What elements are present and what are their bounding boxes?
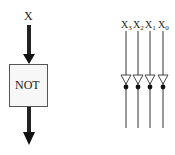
label-x3: X3 xyxy=(121,20,132,32)
label-x1: X1 xyxy=(145,20,156,32)
inverter-bank xyxy=(121,31,168,128)
label-x0: X0 xyxy=(158,20,169,32)
input-label-x: X xyxy=(24,10,33,22)
inverter-x1 xyxy=(145,31,155,128)
inverter-x0 xyxy=(158,31,168,128)
label-x2: X2 xyxy=(133,20,144,32)
input-arrow xyxy=(23,25,35,64)
inverter-x3 xyxy=(121,31,131,128)
inverter-x2 xyxy=(133,31,143,128)
output-arrow xyxy=(23,107,35,145)
not-gate-label: NOT xyxy=(15,79,40,91)
